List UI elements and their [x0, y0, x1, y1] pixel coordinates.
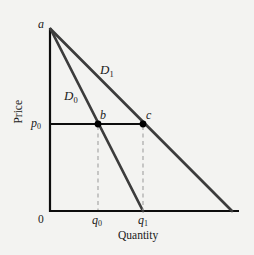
label-q0-subscript: 0: [98, 219, 102, 228]
label-p0-subscript: 0: [37, 122, 41, 131]
label-demand-curve-d1: D1: [100, 63, 114, 76]
x-axis-title: Quantity: [118, 230, 158, 242]
label-d1-subscript: 1: [109, 69, 113, 79]
demand-curve-d0: [51, 29, 144, 211]
label-q1-subscript: 1: [144, 219, 148, 228]
label-d0-subscript: 0: [73, 95, 77, 105]
demand-curve-diagram: a D1 D0 p0 b c 0 q0 q1 Quantity Price: [0, 0, 254, 255]
y-axis-title: Price: [13, 96, 25, 128]
label-point-b: b: [100, 109, 106, 121]
demand-curve-d1: [51, 29, 233, 211]
label-d1-letter: D: [100, 62, 109, 77]
label-price-level-p0: p0: [31, 117, 41, 129]
label-q1: q1: [138, 214, 148, 226]
label-demand-curve-d0: D0: [64, 89, 78, 102]
label-origin: 0: [38, 214, 44, 226]
label-point-a: a: [38, 18, 44, 30]
label-point-c: c: [146, 109, 151, 121]
label-q0: q0: [92, 214, 102, 226]
label-d0-letter: D: [64, 88, 73, 103]
